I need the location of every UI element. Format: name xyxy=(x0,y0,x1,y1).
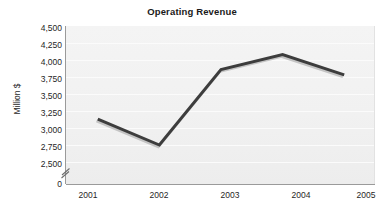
gridline-2750 xyxy=(66,145,374,146)
y-tick-label: 2,750 xyxy=(18,143,62,152)
gridline-2500 xyxy=(66,162,374,163)
y-tick-label: 3,500 xyxy=(18,92,62,101)
y-axis-line xyxy=(65,26,66,184)
gridline-4250 xyxy=(66,43,374,44)
y-axis-ticks: 4,500 4,250 4,000 3,750 3,500 3,250 3,00… xyxy=(14,0,62,214)
y-tick-label: 4,000 xyxy=(18,58,62,67)
y-tick-label: 3,750 xyxy=(18,75,62,84)
y-tick-label: 0 xyxy=(18,180,62,189)
plot-right-edge xyxy=(374,26,375,184)
gridline-3500 xyxy=(66,94,374,95)
y-tick-label: 4,500 xyxy=(18,24,62,33)
plot-area xyxy=(66,26,374,184)
x-tick-label: 2001 xyxy=(64,190,112,200)
x-tick-label: 2005 xyxy=(342,190,384,200)
y-tick-label: 4,250 xyxy=(18,41,62,50)
line-chart: Operating Revenue Million $ 4,500 4,250 … xyxy=(0,0,384,214)
y-tick-label: 3,250 xyxy=(18,109,62,118)
gridline-3250 xyxy=(66,111,374,112)
gridline-3000 xyxy=(66,128,374,129)
x-tick-label: 2002 xyxy=(135,190,183,200)
gridline-3750 xyxy=(66,77,374,78)
x-tick-label: 2003 xyxy=(206,190,254,200)
x-axis-line xyxy=(66,184,375,185)
gridline-4000 xyxy=(66,60,374,61)
y-tick-label: 3,000 xyxy=(18,126,62,135)
y-tick-label: 2,500 xyxy=(18,160,62,169)
x-tick-label: 2004 xyxy=(277,190,325,200)
